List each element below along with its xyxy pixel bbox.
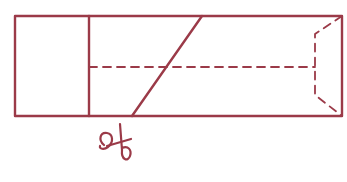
scissors-icon [100,124,131,159]
end-fold-line [315,16,342,116]
diagonal-cut-line [132,16,202,116]
outer-rectangle [15,16,342,116]
box-net-diagram [0,0,347,182]
